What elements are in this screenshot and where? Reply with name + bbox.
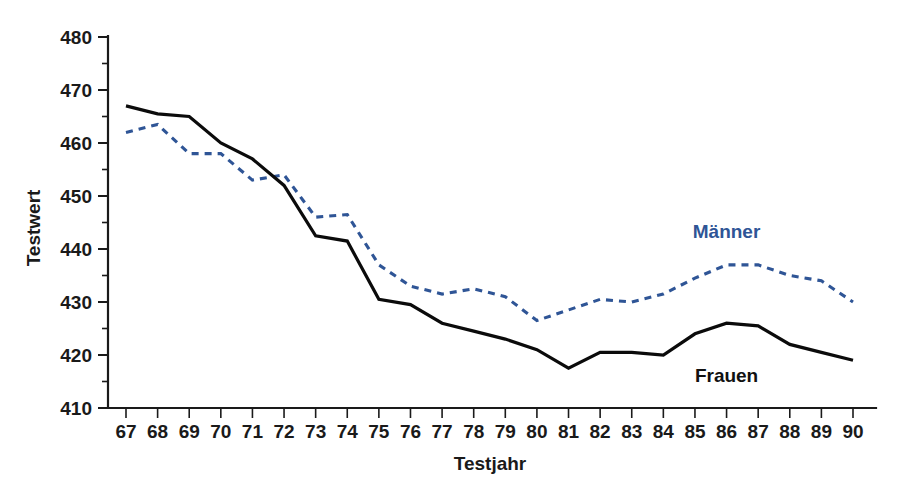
x-tick-label: 89 [811,421,832,442]
x-tick-label: 90 [842,421,863,442]
x-tick-label: 70 [210,421,231,442]
y-axis-label: Testwert [23,189,44,266]
x-tick-label: 67 [115,421,136,442]
x-tick-label: 80 [526,421,547,442]
x-axis-label: Testjahr [454,453,527,474]
x-tick-label: 69 [179,421,200,442]
x-tick-label: 87 [748,421,769,442]
line-chart: Testwert Testjahr 4804704604504404304204… [0,0,906,498]
x-tick-label: 75 [368,421,390,442]
y-tick-label: 470 [60,80,92,101]
x-tick-label: 72 [273,421,294,442]
x-tick-label: 78 [463,421,484,442]
x-tick-label: 83 [621,421,642,442]
chart-container: Testwert Testjahr 4804704604504404304204… [0,0,906,498]
x-tick-label: 74 [337,421,359,442]
y-tick-label: 410 [60,398,92,419]
x-tick-label: 77 [432,421,453,442]
x-tick-label: 88 [779,421,800,442]
legend-label-maenner: Männer [693,221,761,242]
y-tick-label: 440 [60,239,92,260]
x-tick-label: 71 [242,421,264,442]
x-tick-label: 84 [653,421,675,442]
legend-label-frauen: Frauen [695,365,758,386]
y-tick-label: 480 [60,27,92,48]
x-tick-label: 81 [558,421,580,442]
x-tick-label: 79 [495,421,516,442]
x-tick-label: 76 [400,421,421,442]
x-tick-label: 73 [305,421,326,442]
y-tick-label: 420 [60,345,92,366]
y-tick-label: 460 [60,133,92,154]
x-tick-label: 82 [590,421,611,442]
y-tick-label: 430 [60,292,92,313]
x-tick-label: 86 [716,421,737,442]
x-tick-label: 68 [147,421,168,442]
y-tick-label: 450 [60,186,92,207]
x-tick-label: 85 [684,421,706,442]
